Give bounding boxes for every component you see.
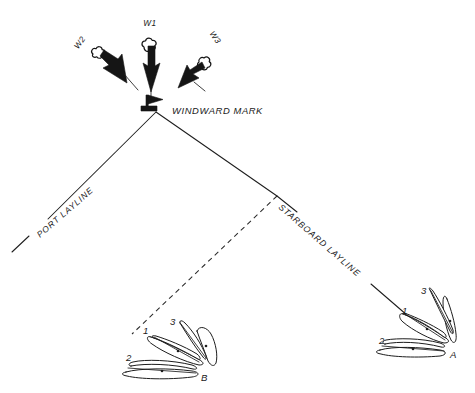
port-layline-label: PORT LAYLINE [35,185,96,240]
boat-b-3-label: 3 [170,316,176,327]
wind-arrow-w1: W1 [142,19,160,96]
wind-label-w1: W1 [143,19,156,28]
wind-label-w2: W2 [72,34,87,50]
wind-arrow-w3: W3 [178,29,223,91]
wind-arrow-w2: W2 [72,34,138,90]
wind-arrow-w1-icon [143,46,160,92]
windward-mark-diagram: W2 W1 W3 WINDWARD MARK PORT LAYLINE STAR… [0,0,475,393]
boat-b-1-crew [177,350,180,353]
boat-a-3-crew [449,320,452,323]
diagram-canvas: W2 W1 W3 WINDWARD MARK PORT LAYLINE STAR… [0,0,475,393]
wind-arrow-w3-icon [178,62,205,88]
boat-b-3-crew [205,345,208,348]
port-layline-segment-lower [12,236,29,252]
boat-a-2 [376,339,445,357]
wind-arrow-w3-tail [194,82,205,91]
boat-group-a: 1 2 3 A [376,285,457,360]
boat-a-1-crew [426,328,429,331]
boat-group-b: 1 2 3 B [122,316,216,383]
starboard-layline-segment-upper [156,112,277,196]
wind-arrow-w2-icon [100,50,127,83]
layline-group [12,112,415,334]
boat-a-2-hull [376,347,445,357]
boat-b-2-crew [161,370,164,373]
boat-a-3-label: 3 [421,285,427,296]
boat-a-2-crew [412,348,415,351]
boat-group-a-label: A [449,349,457,360]
port-tack-approach-line [132,196,277,334]
boat-b-2-label: 2 [125,352,132,363]
windward-mark-label: WINDWARD MARK [172,105,263,116]
wind-label-w3: W3 [208,29,223,45]
boat-a-1-label: 1 [402,305,408,316]
boat-b-1-label: 1 [143,325,149,336]
flag-icon [148,95,163,104]
boat-b-2 [122,360,198,378]
port-layline-segment-upper [48,112,156,219]
boat-group-b-label: B [201,372,208,383]
boat-a-2-label: 2 [378,335,385,346]
starboard-layline-label: STARBOARD LAYLINE [277,202,363,279]
windward-mark-icon [141,95,163,111]
buoy-base-icon [141,106,157,111]
